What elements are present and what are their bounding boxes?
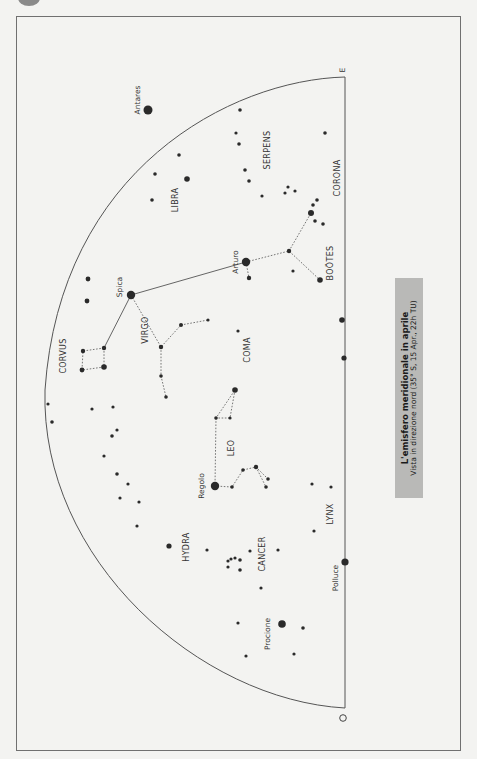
label-coma: COMA — [243, 337, 252, 363]
label-virgo: VIRGO — [141, 316, 150, 343]
label-arturo: Arturo — [231, 250, 240, 274]
label-libra: LIBRA — [171, 188, 180, 213]
label-cancer: CANCER — [258, 536, 267, 571]
sky-arc — [45, 77, 345, 708]
label-procione: Procione — [263, 618, 272, 650]
label-serpens: SERPENS — [263, 131, 272, 170]
solid-lines — [104, 262, 246, 348]
compass-west-icon — [340, 715, 347, 722]
caption-box: L'emisfero meridionale in aprile Vista i… — [395, 278, 423, 498]
compass-east: E — [338, 67, 347, 72]
label-antares: Antares — [133, 85, 142, 114]
label-polluce: Polluce — [331, 564, 340, 591]
horizon — [45, 77, 345, 708]
label-corvus: CORVUS — [59, 338, 68, 373]
star-labels: Antares Arturo Spica Regolo Procione Pol… — [115, 85, 340, 650]
constellation-labels: SERPENS CORONA LIBRA BOÖTES VIRGO COMA C… — [59, 131, 342, 572]
star-arturo — [242, 258, 250, 266]
star-spica — [127, 291, 135, 299]
star-regolo — [211, 482, 219, 490]
label-lynx: LYNX — [326, 503, 335, 524]
label-bootes: BOÖTES — [325, 246, 335, 281]
star-procione — [278, 620, 286, 628]
map-subtitle: Vista in direzione nord (35° S, 15 Apr.,… — [410, 300, 418, 475]
label-corona: CORONA — [333, 159, 342, 196]
label-spica: Spica — [115, 277, 124, 297]
label-regolo: Regolo — [197, 473, 206, 499]
label-hydra: HYDRA — [182, 532, 191, 561]
dotted-lines — [82, 213, 320, 487]
star-antares — [144, 106, 153, 115]
stars — [46, 106, 348, 658]
star-polluce — [341, 558, 348, 565]
label-leo: LEO — [227, 440, 236, 457]
